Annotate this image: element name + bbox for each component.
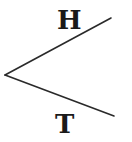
probability-tree-diagram: H T	[0, 0, 132, 142]
branch-label-tails: T	[55, 111, 74, 137]
branch-label-heads: H	[57, 7, 82, 33]
